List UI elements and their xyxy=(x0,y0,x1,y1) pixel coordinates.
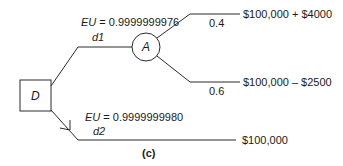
d1-eu-prefix: EU xyxy=(81,16,96,28)
branch-d1-line xyxy=(51,47,132,86)
outcome-loss-label: $100,000 – $2500 xyxy=(243,77,332,88)
d2-eu-prefix: EU xyxy=(85,111,100,123)
d2-eu-label: EU = 0.9999999980 xyxy=(85,112,183,123)
figure-caption: (c) xyxy=(142,148,155,159)
outcome-gain-label: $100,000 + $4000 xyxy=(243,9,332,20)
d2-eu-value: = 0.9999999980 xyxy=(103,111,183,123)
decision-tree-diagram: D A EU = 0.9999999976 d1 0.4 $100,000 + … xyxy=(0,0,343,166)
probability-0.6-label: 0.6 xyxy=(209,86,224,97)
chance-node-label: A xyxy=(142,41,150,53)
d2-branch-label: d2 xyxy=(93,126,105,137)
probability-0.4-label: 0.4 xyxy=(209,18,224,29)
chance-branch-0.6-line xyxy=(157,56,240,82)
d1-eu-label: EU = 0.9999999976 xyxy=(81,17,179,28)
outcome-sure-label: $100,000 xyxy=(242,135,288,146)
decision-node-label: D xyxy=(31,90,40,102)
d1-eu-value: = 0.9999999976 xyxy=(99,16,179,28)
d1-branch-label: d1 xyxy=(92,32,104,43)
